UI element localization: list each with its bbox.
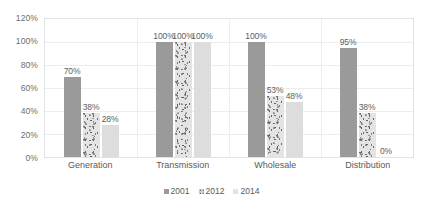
bar[interactable]: 100% — [175, 42, 192, 157]
bar-value-label: 100% — [245, 31, 266, 41]
bar-value-label: 0% — [380, 146, 392, 156]
bar[interactable]: 100% — [194, 42, 211, 157]
bar-value-label: 38% — [359, 102, 376, 112]
y-axis-tick-label: 80% — [21, 60, 38, 70]
x-axis-category-label: Wholesale — [229, 160, 322, 176]
bar-slot: 95% — [340, 19, 357, 157]
legend-swatch-icon — [164, 189, 169, 194]
bar[interactable]: 100% — [156, 42, 173, 157]
bar-chart: 0%20%40%60%80%100%120% 70%38%28%100%100%… — [0, 0, 423, 205]
bar[interactable]: 38% — [83, 113, 100, 157]
legend-label: 2012 — [206, 186, 225, 196]
legend-swatch-icon — [199, 189, 204, 194]
bar-value-label: 38% — [83, 102, 100, 112]
bar[interactable]: 100% — [248, 42, 265, 157]
plot-area: 70%38%28%100%100%100%100%53%48%95%38%0% — [44, 18, 414, 158]
legend-item[interactable]: 2001 — [164, 186, 190, 196]
bar-slot: 28% — [102, 19, 119, 157]
bar-group: 100%53%48% — [229, 19, 321, 157]
bar-slot: 100% — [156, 19, 173, 157]
legend-label: 2014 — [240, 186, 259, 196]
bar-value-label: 70% — [64, 66, 81, 76]
bar-slot: 53% — [267, 19, 284, 157]
legend-swatch-icon — [233, 189, 238, 194]
bar-value-label: 53% — [267, 85, 284, 95]
bar-slot: 0% — [378, 19, 395, 157]
bar-value-label: 100% — [191, 31, 212, 41]
x-axis: GenerationTransmissionWholesaleDistribut… — [44, 160, 414, 176]
x-axis-category-label: Generation — [44, 160, 137, 176]
y-axis-tick-label: 100% — [16, 36, 38, 46]
x-axis-category-label: Distribution — [322, 160, 415, 176]
bar-value-label: 95% — [340, 37, 357, 47]
legend-item[interactable]: 2014 — [233, 186, 259, 196]
bar[interactable]: 38% — [359, 113, 376, 157]
bar[interactable]: 53% — [267, 96, 284, 157]
bar-slot: 48% — [286, 19, 303, 157]
bar[interactable]: 70% — [64, 77, 81, 158]
bar-value-label: 48% — [286, 91, 303, 101]
y-axis-tick-label: 40% — [21, 106, 38, 116]
y-axis-tick-label: 120% — [16, 13, 38, 23]
bar-groups: 70%38%28%100%100%100%100%53%48%95%38%0% — [45, 19, 413, 157]
bar-slot: 38% — [359, 19, 376, 157]
y-axis-tick-label: 20% — [21, 130, 38, 140]
x-axis-category-label: Transmission — [137, 160, 230, 176]
bar-group: 70%38%28% — [45, 19, 137, 157]
bar-slot: 38% — [83, 19, 100, 157]
bar-slot: 100% — [194, 19, 211, 157]
y-axis: 0%20%40%60%80%100%120% — [0, 18, 42, 158]
bar-slot: 100% — [248, 19, 265, 157]
bar[interactable]: 95% — [340, 48, 357, 157]
chart-legend: 200120122014 — [0, 186, 423, 196]
legend-label: 2001 — [171, 186, 190, 196]
bar-value-label: 28% — [102, 114, 119, 124]
bar[interactable]: 48% — [286, 102, 303, 157]
bar-slot: 70% — [64, 19, 81, 157]
bar-slot: 100% — [175, 19, 192, 157]
bar[interactable]: 28% — [102, 125, 119, 157]
legend-item[interactable]: 2012 — [199, 186, 225, 196]
bar-group: 100%100%100% — [137, 19, 229, 157]
y-axis-tick-label: 0% — [26, 153, 39, 163]
y-axis-tick-label: 60% — [21, 83, 38, 93]
bar-group: 95%38%0% — [321, 19, 413, 157]
